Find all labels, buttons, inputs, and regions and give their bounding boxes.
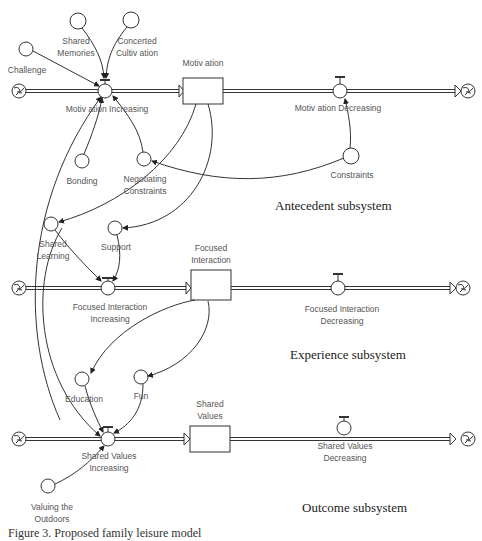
cloud-sink-icon — [456, 281, 470, 295]
converter-valuing-outdoors[interactable] — [41, 479, 55, 493]
cloud-source-icon — [12, 84, 26, 98]
converter-shared-learning[interactable] — [44, 217, 58, 231]
converter-label-shared-memories: SharedMemories — [57, 35, 94, 59]
label-line: Values — [197, 411, 222, 421]
converter-negotiating-constraints[interactable] — [137, 152, 151, 166]
converter-education[interactable] — [75, 372, 89, 386]
flow-label-motivation-decreasing: Motiv ation Decreasing — [295, 102, 381, 114]
label-line: Shared — [39, 239, 66, 249]
converter-bonding[interactable] — [75, 154, 89, 168]
converter-label-constraints: Constraints — [331, 169, 374, 181]
converter-fun[interactable] — [134, 370, 148, 384]
stock-shared-values[interactable] — [190, 426, 230, 452]
stock-focused-interaction[interactable] — [191, 270, 231, 300]
stock-label-focused-interaction: FocusedInteraction — [191, 242, 231, 266]
label-line: Constraints — [123, 186, 166, 196]
subsystem-label-experience: Experience subsystem — [290, 347, 406, 363]
valve-motivation-decreasing[interactable] — [333, 77, 347, 98]
label-line: Negotiating — [123, 174, 166, 184]
subsystem-label-outcome: Outcome subsystem — [302, 500, 407, 516]
stock-motivation[interactable] — [183, 78, 223, 104]
label-line: Decreasing — [323, 453, 366, 463]
converter-label-concerted-cultivation: ConcertedCultiv ation — [116, 35, 158, 59]
subsystem-label-antecedent: Antecedent subsystem — [275, 198, 392, 214]
label-line: Memories — [57, 48, 94, 58]
converter-challenge[interactable] — [19, 42, 33, 56]
label-line: Focused Interaction — [305, 304, 380, 314]
cloud-sink-icon — [461, 432, 475, 446]
label-line: Shared — [62, 36, 89, 46]
flow-label-focused-interaction-decreasing: Focused InteractionDecreasing — [305, 303, 380, 327]
stock-label-motivation: Motiv ation — [182, 57, 223, 69]
converter-label-valuing-outdoors: Valuing theOutdoors — [31, 501, 73, 525]
converter-support[interactable] — [108, 221, 122, 235]
cloud-sink-icon — [461, 84, 475, 98]
stock-label-shared-values: SharedValues — [196, 398, 223, 422]
valve-focused-interaction-decreasing[interactable] — [331, 274, 345, 295]
label-line: Focused Interaction — [73, 302, 148, 312]
converter-label-support: Support — [101, 241, 131, 253]
label-line: Increasing — [90, 314, 129, 324]
flow-label-shared-values-decreasing: Shared ValuesDecreasing — [317, 440, 372, 464]
label-line: Concerted — [117, 36, 156, 46]
converter-shared-memories[interactable] — [70, 13, 86, 29]
cloud-source-icon — [12, 281, 26, 295]
label-line: Learning — [36, 251, 69, 261]
label-line: Focused — [195, 243, 228, 253]
flow-label-motivation-increasing: Motiv ation Increasing — [66, 103, 149, 115]
converter-label-shared-learning: SharedLearning — [36, 238, 69, 262]
flow-label-shared-values-increasing: Shared ValuesIncreasing — [81, 450, 136, 474]
label-line: Shared Values — [317, 441, 372, 451]
converter-label-challenge: Challenge — [8, 64, 46, 76]
converter-constraints[interactable] — [343, 148, 359, 164]
label-line: Valuing the — [31, 502, 73, 512]
valve-shared-values-increasing[interactable] — [101, 427, 115, 446]
valve-shared-values-decreasing[interactable] — [337, 417, 351, 435]
converter-label-fun: Fun — [134, 390, 149, 402]
label-line: Shared Values — [81, 451, 136, 461]
figure-caption: Figure 3. Proposed family leisure model — [8, 526, 201, 541]
label-line: Cultiv ation — [116, 48, 158, 58]
valve-motivation-increasing[interactable] — [98, 80, 112, 98]
flow-label-focused-interaction-increasing: Focused InteractionIncreasing — [73, 301, 148, 325]
converter-label-education: Education — [65, 393, 103, 405]
converter-label-negotiating-constraints: NegotiatingConstraints — [123, 173, 166, 197]
label-line: Interaction — [191, 255, 231, 265]
cloud-source-icon — [12, 432, 26, 446]
label-line: Outdoors — [35, 514, 70, 524]
label-line: Shared — [196, 399, 223, 409]
label-line: Increasing — [89, 463, 128, 473]
label-line: Decreasing — [321, 316, 364, 326]
converter-label-bonding: Bonding — [66, 175, 97, 187]
converter-concerted-cultivation[interactable] — [123, 12, 139, 28]
